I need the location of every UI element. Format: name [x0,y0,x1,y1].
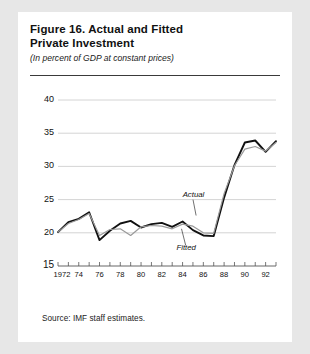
source-note: Source: IMF staff estimates. [42,314,145,323]
x-tick-label-1972: 1972 [51,270,73,279]
y-tick-label-15: 15 [32,259,54,270]
annotation-fitted: Fitted [176,243,196,252]
figure-subtitle: (In percent of GDP at constant prices) [30,53,280,64]
x-tick-label-1976: 76 [93,270,107,279]
series-line-actual [58,141,276,241]
y-tick-label-40: 40 [32,94,54,104]
annotation-actual: Actual [183,190,205,199]
y-tick-label-35: 35 [32,127,54,137]
y-tick-label-25: 25 [32,194,54,204]
x-tick-label-1992: 92 [259,270,273,279]
x-tick-label-1978: 78 [113,270,127,279]
x-tick-label-1986: 86 [196,270,210,279]
actual-leader-line [193,200,196,216]
x-tick-label-1988: 88 [217,270,231,279]
title-block: Figure 16. Actual and Fitted Private Inv… [30,22,280,64]
x-tick-label-1980: 80 [134,270,148,279]
figure-title-line-1: Figure 16. Actual and Fitted [30,22,280,36]
series-line-fitted [58,143,276,236]
x-tick-label-1974: 74 [72,270,86,279]
figure-page: Figure 16. Actual and Fitted Private Inv… [0,0,310,354]
y-tick-label-20: 20 [32,227,54,237]
figure-title-line-2: Private Investment [30,36,280,50]
x-tick-label-1984: 84 [176,270,190,279]
chart-plot-area: 152025303540197274767880828486889092Actu… [30,88,280,303]
x-tick-label-1982: 82 [155,270,169,279]
title-divider [30,75,280,76]
figure-card: Figure 16. Actual and Fitted Private Inv… [18,12,292,342]
y-tick-label-30: 30 [32,160,54,170]
x-tick-label-1990: 90 [238,270,252,279]
